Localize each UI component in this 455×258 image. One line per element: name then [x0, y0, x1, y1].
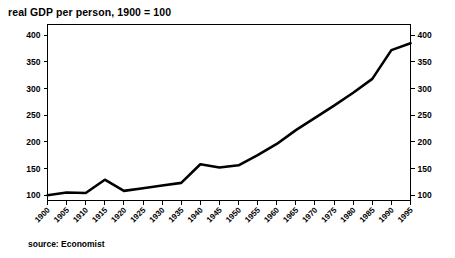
- source-note: source: Economist: [28, 239, 105, 249]
- y-axis-left-tick-label: 300: [26, 84, 40, 94]
- x-axis-tick-label: 1925: [128, 205, 147, 224]
- y-axis-left-tick-label: 200: [26, 137, 40, 147]
- y-axis-left-tick-label: 400: [26, 30, 40, 40]
- y-axis-right-tick-label: 400: [418, 30, 432, 40]
- y-axis-right-tick-label: 200: [418, 137, 432, 147]
- x-axis-tick-label: 1960: [262, 205, 281, 224]
- x-axis-tick-label: 1915: [90, 205, 109, 224]
- y-axis-left-tick-label: 250: [26, 110, 40, 120]
- data-line-real-gdp: [48, 43, 411, 195]
- x-axis-tick-label: 1995: [396, 205, 415, 224]
- line-chart-plot: 100150200250300350400 100150200250300350…: [0, 0, 455, 258]
- x-axis-ticks: 1900190519101915192019251930193519401945…: [33, 201, 415, 225]
- chart-figure: real GDP per person, 1900 = 100 10015020…: [0, 0, 455, 258]
- x-axis-tick-label: 1950: [224, 205, 243, 224]
- x-axis-tick-label: 1990: [377, 205, 396, 224]
- y-axis-right-tick-label: 250: [418, 110, 432, 120]
- x-axis-tick-label: 1970: [300, 205, 319, 224]
- y-axis-right-ticks: 100150200250300350400: [411, 30, 432, 200]
- x-axis-tick-label: 1935: [167, 205, 186, 224]
- y-axis-right-tick-label: 300: [418, 84, 432, 94]
- y-axis-left-ticks: 100150200250300350400: [26, 30, 47, 200]
- x-axis-tick-label: 1920: [109, 205, 128, 224]
- x-axis-tick-label: 1930: [148, 205, 167, 224]
- x-axis-tick-label: 1980: [339, 205, 358, 224]
- y-axis-left-tick-label: 100: [26, 190, 40, 200]
- y-axis-left-tick-label: 350: [26, 57, 40, 67]
- x-axis-tick-label: 1905: [52, 205, 71, 224]
- x-axis-tick-label: 1985: [358, 205, 377, 224]
- x-axis-tick-label: 1965: [281, 205, 300, 224]
- x-axis-tick-label: 1975: [320, 205, 339, 224]
- y-axis-right-tick-label: 150: [418, 164, 432, 174]
- x-axis-tick-label: 1940: [186, 205, 205, 224]
- x-axis-tick-label: 1900: [33, 205, 52, 224]
- y-axis-right-tick-label: 350: [418, 57, 432, 67]
- x-axis-tick-label: 1945: [205, 205, 224, 224]
- plot-frame: [48, 25, 411, 201]
- data-series-group: [48, 43, 411, 195]
- x-axis-tick-label: 1910: [71, 205, 90, 224]
- x-axis-tick-label: 1955: [243, 205, 262, 224]
- y-axis-left-tick-label: 150: [26, 164, 40, 174]
- y-axis-right-tick-label: 100: [418, 190, 432, 200]
